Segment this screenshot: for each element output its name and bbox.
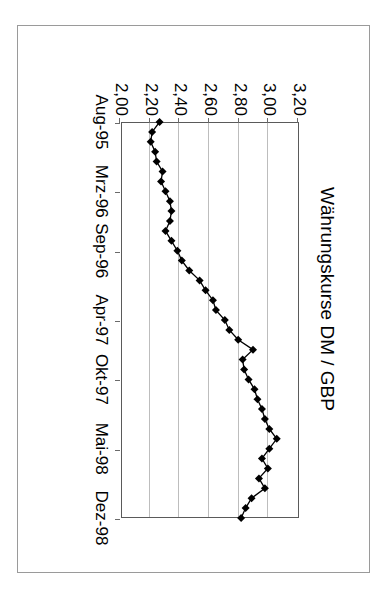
y-axis-tick-label: 2,20 <box>140 83 160 116</box>
data-point-marker <box>208 296 216 304</box>
y-axis-tick-label: 2,00 <box>111 83 131 116</box>
x-axis-labels: Aug-95Mrz-96Sep-96Apr-97Okt-97Mai-98Dez-… <box>86 122 116 518</box>
data-point-marker <box>250 385 258 393</box>
y-axis-tick-label: 3,20 <box>289 83 309 116</box>
x-axis-tick <box>115 519 120 520</box>
data-point-marker <box>151 148 159 156</box>
data-point-marker <box>158 168 166 176</box>
figure-page: Währungskurse DM / GBP 2,002,202,402,602… <box>0 0 389 600</box>
data-point-marker <box>167 207 175 215</box>
x-axis-tick-label: Sep-96 <box>91 223 111 278</box>
data-point-marker <box>165 197 173 205</box>
x-axis-tick-label: Apr-97 <box>91 294 111 345</box>
chart-title: Währungskurse DM / GBP <box>316 64 338 534</box>
x-axis-tick-label: Mai-98 <box>91 423 111 475</box>
rotated-chart-container: Währungskurse DM / GBP 2,002,202,402,602… <box>44 64 344 534</box>
data-point-marker <box>161 187 169 195</box>
figure-outer-frame: Währungskurse DM / GBP 2,002,202,402,602… <box>17 25 370 573</box>
data-point-marker <box>237 514 245 522</box>
y-axis-tick-label: 2,60 <box>200 83 220 116</box>
x-axis-tick-label: Dez-98 <box>91 491 111 546</box>
data-point-marker <box>240 366 248 374</box>
data-point-marker <box>247 494 255 502</box>
y-axis-tick-label: 3,00 <box>259 83 279 116</box>
x-axis-tick-label: Aug-95 <box>91 95 111 150</box>
data-point-marker <box>165 217 173 225</box>
data-point-marker <box>157 177 165 185</box>
y-axis-tick-label: 2,40 <box>170 83 190 116</box>
data-point-marker <box>253 395 261 403</box>
x-axis-tick-label: Okt-97 <box>91 354 111 405</box>
data-point-marker <box>272 435 280 443</box>
data-point-marker <box>146 138 154 146</box>
series-polyline <box>150 122 276 518</box>
data-point-marker <box>260 415 268 423</box>
data-point-marker <box>257 405 265 413</box>
data-point-marker <box>173 247 181 255</box>
data-series-line <box>121 122 299 518</box>
y-axis-tick-label: 2,80 <box>229 83 249 116</box>
chart-stage: Währungskurse DM / GBP 2,002,202,402,602… <box>44 64 344 534</box>
data-point-marker <box>155 118 163 126</box>
y-axis-labels: 2,002,202,402,602,803,003,20 <box>121 64 299 116</box>
x-axis-tick-label: Mrz-96 <box>91 165 111 218</box>
